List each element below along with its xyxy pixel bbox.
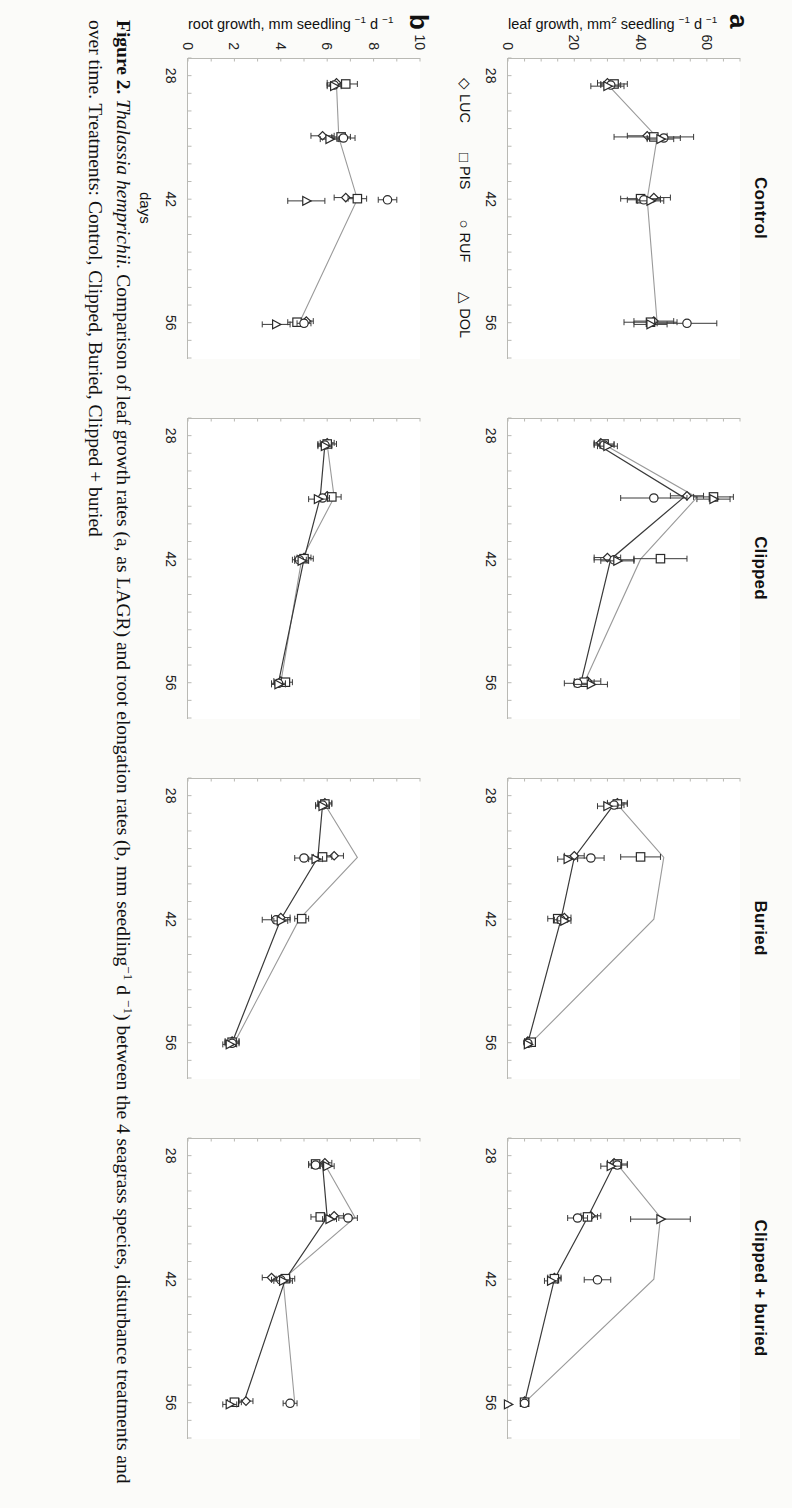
y-tick-label: 6	[319, 42, 335, 50]
x-tick-label: 42	[163, 551, 179, 567]
x-tick-label: 56	[483, 1035, 499, 1051]
plot-svg	[188, 1138, 420, 1438]
plot-svg	[188, 778, 420, 1078]
y-tick-label: 0	[180, 42, 196, 50]
x-tick-label: 42	[483, 551, 499, 567]
x-tick-label: 56	[163, 675, 179, 691]
y-tick-label: 4	[273, 42, 289, 50]
caption-text-2: d	[113, 980, 134, 1000]
y-axis-label-a: leaf growth, mm2 seedling −1 d −1	[508, 14, 717, 32]
x-tick-label: 28	[163, 1148, 179, 1164]
plot-svg	[508, 418, 740, 718]
x-tick-label: 28	[163, 788, 179, 804]
trend-line	[525, 1164, 614, 1402]
x-tick-label: 42	[163, 191, 179, 207]
panel-letter-a: a	[723, 14, 754, 28]
rotated-page-content: Controla0204060284256Clipped284256Buried…	[0, 0, 792, 1508]
trend-line	[581, 444, 684, 682]
x-tick-label: 42	[163, 1271, 179, 1287]
caption-text-3: ) between the	[113, 1014, 134, 1119]
x-tick-label: 56	[163, 315, 179, 331]
x-tick-label: 28	[163, 68, 179, 84]
x-tick-label: 28	[483, 68, 499, 84]
panel-b-buried: 284256	[188, 778, 420, 1078]
panel-title-0: Control	[750, 58, 770, 358]
panel-a-buried: Buried284256	[508, 778, 740, 1078]
caption-label: Figure 2.	[113, 20, 134, 94]
trend-line	[299, 84, 357, 322]
caption-sup-1: −1	[121, 966, 136, 980]
y-tick-label: 20	[566, 34, 582, 50]
x-axis-label-days: days	[137, 192, 154, 224]
y-axis-label-b: root growth, mm seedling −1 d −1	[188, 14, 393, 32]
x-tick-label: 56	[163, 1035, 179, 1051]
trend-line	[234, 804, 357, 1042]
legend-item-dol: △DOL	[456, 292, 474, 338]
legend-item-luc: ◇LUC	[456, 78, 474, 123]
legend-label: RUF	[457, 233, 473, 263]
y-tick-label: 10	[412, 34, 428, 50]
panel-b-clipped-buried: 284256	[188, 1138, 420, 1438]
y-tick-label: 0	[500, 42, 516, 50]
y-tick-label: 60	[699, 34, 715, 50]
x-tick-label: 56	[483, 315, 499, 331]
x-tick-label: 42	[163, 911, 179, 927]
diamond-marker-icon: ◇	[456, 78, 474, 90]
panel-a-clipped-buried: Clipped + buried284256	[508, 1138, 740, 1438]
panel-title-3: Clipped + buried	[750, 1138, 770, 1438]
trend-line	[281, 444, 334, 682]
caption-sup-2: −1	[121, 1000, 136, 1014]
trend-line	[244, 1164, 328, 1402]
figure-caption: Figure 2. Thalassia hemprichii. Comparis…	[81, 20, 137, 1488]
x-tick-label: 28	[163, 428, 179, 444]
trend-line	[283, 1164, 355, 1402]
panel-a-control: Controla0204060284256	[508, 58, 740, 358]
x-tick-label: 56	[163, 1395, 179, 1411]
y-tick-label: 8	[366, 42, 382, 50]
trend-line	[531, 804, 664, 1042]
plot-svg	[508, 1138, 740, 1438]
panel-title-2: Buried	[750, 778, 770, 1078]
legend-item-pis: □PIS	[457, 153, 474, 189]
x-tick-label: 56	[483, 1395, 499, 1411]
legend-label: LUC	[457, 94, 473, 123]
y-tick-label: 2	[226, 42, 242, 50]
x-tick-label: 28	[483, 428, 499, 444]
circle-marker-icon: ○	[457, 219, 474, 228]
series-legend: ◇LUC□PIS○RUF△DOL	[456, 78, 474, 338]
caption-species: Thalassia hemprichii.	[113, 99, 134, 269]
panel-b-control: b0246810284256	[188, 58, 420, 358]
panel-title-1: Clipped	[750, 418, 770, 718]
panel-a-clipped: Clipped284256	[508, 418, 740, 718]
caption-text-1: Comparison of leaf growth rates (a, as L…	[113, 274, 134, 966]
x-tick-label: 28	[483, 788, 499, 804]
x-tick-label: 56	[483, 675, 499, 691]
plot-svg	[508, 58, 740, 358]
square-marker-icon: □	[457, 153, 474, 162]
legend-item-ruf: ○RUF	[457, 219, 474, 262]
x-tick-label: 42	[483, 191, 499, 207]
triangle-marker-icon: △	[456, 292, 474, 304]
legend-label: DOL	[457, 308, 473, 338]
plot-svg	[188, 418, 420, 718]
x-tick-label: 42	[483, 911, 499, 927]
panel-b-clipped: 284256	[188, 418, 420, 718]
x-tick-label: 42	[483, 1271, 499, 1287]
panel-letter-b: b	[403, 14, 434, 30]
legend-label: PIS	[457, 166, 473, 189]
y-tick-label: 40	[633, 34, 649, 50]
plot-svg	[508, 778, 740, 1078]
x-tick-label: 28	[483, 1148, 499, 1164]
plot-svg	[188, 58, 420, 358]
